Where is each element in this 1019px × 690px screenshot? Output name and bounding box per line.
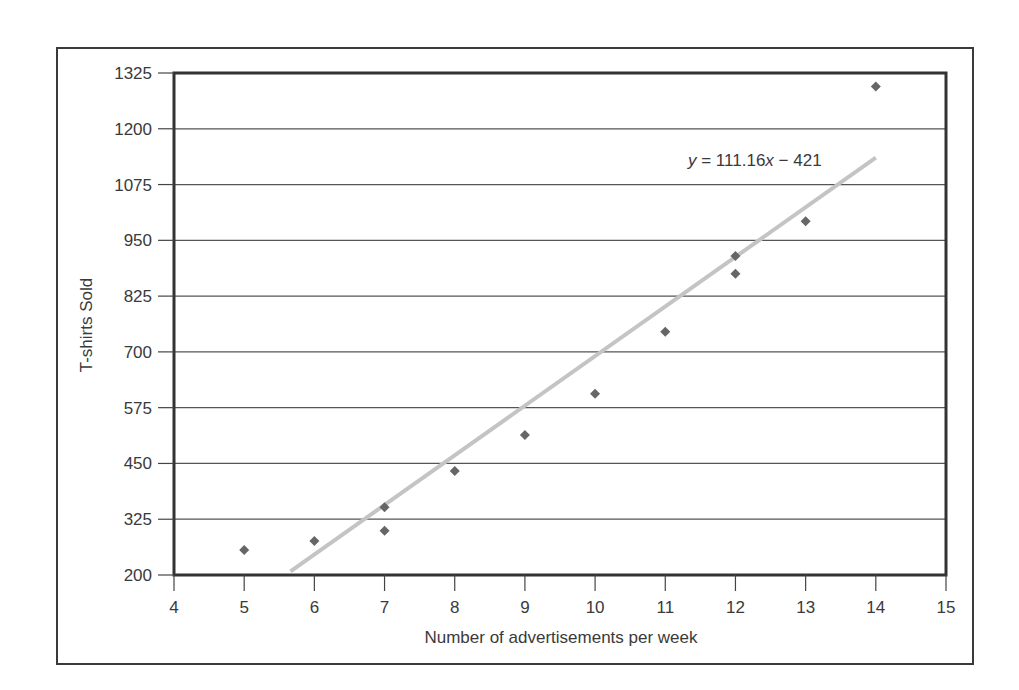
y-tick-label: 950 <box>124 231 152 250</box>
x-tick-label: 14 <box>866 598 885 617</box>
x-tick-label: 7 <box>380 598 389 617</box>
x-tick-label: 11 <box>656 598 674 617</box>
scatter-chart: 200325450575700825950107512001325 456789… <box>0 0 1019 690</box>
x-tick-label: 5 <box>239 598 248 617</box>
x-tick-label: 8 <box>450 598 459 617</box>
equation-coefficient: = 111.16 <box>697 151 766 170</box>
x-tick-label: 10 <box>586 598 605 617</box>
y-tick-label: 700 <box>124 343 152 362</box>
y-tick-label: 825 <box>124 287 152 306</box>
x-tick-label: 4 <box>169 598 178 617</box>
x-tick-label: 15 <box>937 598 956 617</box>
x-tick-label: 12 <box>726 598 745 617</box>
y-tick-label: 575 <box>124 399 152 418</box>
outer-frame <box>57 48 973 664</box>
equation-x: x <box>764 151 774 170</box>
equation-intercept: − 421 <box>774 151 822 170</box>
y-tick-label: 200 <box>124 566 152 585</box>
y-tick-label: 325 <box>124 510 152 529</box>
x-tick-label: 6 <box>310 598 319 617</box>
y-axis-title: T-shirts Sold <box>77 278 96 372</box>
y-tick-label: 1075 <box>114 176 152 195</box>
y-tick-label: 450 <box>124 454 152 473</box>
y-tick-label: 1200 <box>114 120 152 139</box>
trendline-equation: y = 111.16x − 421 <box>687 151 822 170</box>
x-tick-label: 9 <box>520 598 529 617</box>
x-axis-title: Number of advertisements per week <box>424 628 698 647</box>
x-tick-label: 13 <box>796 598 815 617</box>
y-tick-label: 1325 <box>114 64 152 83</box>
